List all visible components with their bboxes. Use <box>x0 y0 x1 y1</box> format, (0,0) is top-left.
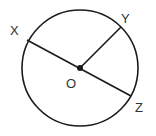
center-dot <box>77 65 83 71</box>
label-y: Y <box>121 11 130 26</box>
label-o: O <box>66 76 76 91</box>
radius-oy <box>80 27 121 68</box>
label-x: X <box>10 23 19 38</box>
circle-diagram: X Y Z O <box>0 0 156 136</box>
label-z: Z <box>135 100 143 115</box>
